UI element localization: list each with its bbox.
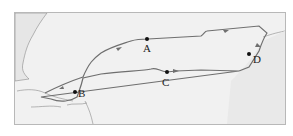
point-c-marker — [165, 70, 169, 74]
map-frame: A B C D — [14, 12, 286, 125]
point-d-marker — [247, 52, 251, 56]
direction-arrow — [223, 30, 229, 33]
point-a-marker — [145, 37, 149, 41]
direction-arrow — [255, 43, 261, 47]
direction-arrow — [116, 47, 122, 51]
route-return — [41, 68, 239, 101]
point-d-label: D — [253, 54, 261, 65]
right-land-shade — [227, 31, 285, 124]
point-b-marker — [73, 90, 77, 94]
map-canvas — [15, 13, 285, 124]
point-b-label: B — [78, 88, 85, 99]
point-a-label: A — [143, 43, 151, 54]
left-coastline — [15, 13, 47, 81]
point-c-label: C — [162, 77, 169, 88]
direction-arrow — [173, 69, 179, 73]
south-coast — [85, 101, 93, 124]
